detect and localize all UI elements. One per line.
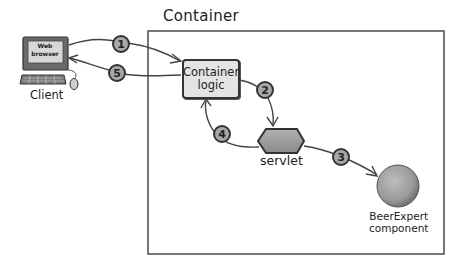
step-badge-3: 3	[332, 148, 350, 166]
container-logic-node: Container logic	[182, 59, 240, 99]
step-badge-2: 2	[256, 81, 274, 99]
container-logic-line2: logic	[197, 79, 224, 92]
beerexpert-line1: BeerExpert	[369, 210, 428, 222]
step-badge-5: 5	[108, 64, 126, 82]
step-badge-4: 4	[213, 125, 231, 143]
beerexpert-component-label: BeerExpert component	[369, 210, 428, 234]
web-browser-screen: Web browser	[30, 42, 60, 58]
step-badge-1: 1	[112, 35, 130, 53]
servlet-hexagon-icon	[258, 129, 304, 153]
beerexpert-sphere-icon	[377, 165, 419, 207]
client-label: Client	[30, 88, 63, 102]
arrow-step-4	[201, 99, 259, 147]
container-title: Container	[163, 7, 239, 25]
beerexpert-line2: component	[369, 222, 428, 234]
servlet-label: servlet	[260, 153, 303, 168]
web-browser-line1: Web	[30, 42, 60, 50]
web-browser-line2: browser	[30, 50, 60, 58]
